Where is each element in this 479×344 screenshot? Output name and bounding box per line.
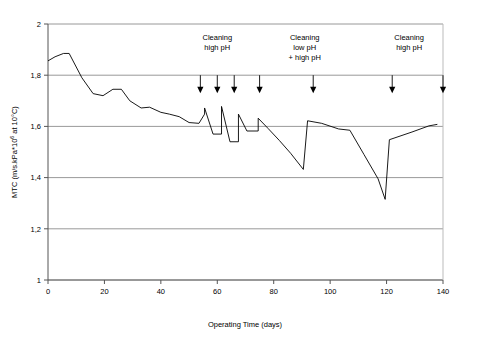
chart-figure: 11,21,41,61,82 020406080100120140 Operat… [0, 0, 479, 344]
x-tick-label-40: 40 [157, 287, 165, 296]
y-tick-label-1.6: 1,6 [31, 122, 41, 131]
x-tick-label-0: 0 [46, 287, 50, 296]
ann-cleaning-high-ph-2: Cleaninghigh pH [394, 33, 424, 52]
x-tick-label-100: 100 [324, 287, 337, 296]
y-tick-label-2: 2 [37, 20, 41, 29]
ann-cleaning-high-ph-1: Cleaninghigh pH [202, 33, 232, 52]
y-tick-label-1: 1 [37, 276, 41, 285]
y-tick-label-1.8: 1,8 [31, 71, 41, 80]
y-axis-label-main: MTC (m/s.kPa*10 [10, 139, 19, 198]
mtc-vs-operating-time-chart: 11,21,41,61,82 020406080100120140 Operat… [0, 0, 479, 344]
x-tick-label-20: 20 [100, 287, 108, 296]
x-tick-label-80: 80 [270, 287, 278, 296]
ann-cleaning-low-high-ph: Cleaninglow pH+ high pH [289, 33, 321, 62]
x-tick-label-60: 60 [213, 287, 221, 296]
y-tick-label-1.2: 1,2 [31, 225, 41, 234]
y-tick-label-1.4: 1,4 [31, 173, 41, 182]
x-tick-label-120: 120 [380, 287, 393, 296]
y-axis-label: MTC (m/s.kPa*106 at 10°C) [9, 106, 19, 198]
x-tick-label-140: 140 [437, 287, 450, 296]
x-axis-label: Operating Time (days) [208, 320, 283, 329]
y-axis-label-tail: at 10°C) [10, 106, 19, 136]
